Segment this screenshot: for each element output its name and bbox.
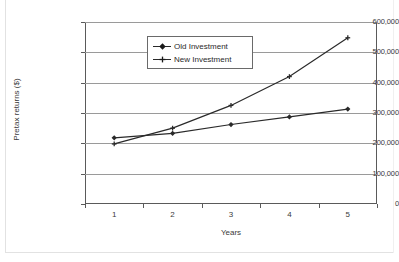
legend-label: Old Investment [172,42,228,51]
x-tick-mark [319,204,320,208]
x-tick-label: 1 [99,210,129,219]
y-tick-label: 100,000 [325,169,399,178]
x-tick-label: 5 [333,210,363,219]
x-tick-label: 2 [158,210,188,219]
x-tick-label: 3 [216,210,246,219]
x-tick-mark [260,204,261,208]
line-chart: 0100,000200,000300,000400,000500,000600,… [0,0,399,262]
x-tick-mark [85,204,86,208]
y-tick-mark [81,22,85,23]
legend-item-new-investment: New Investment [148,53,252,66]
y-tick-label: 400,000 [325,78,399,87]
y-tick-mark [81,143,85,144]
y-tick-mark [81,113,85,114]
x-tick-mark [202,204,203,208]
y-tick-label: 0 [325,199,399,208]
x-tick-label: 4 [274,210,304,219]
y-tick-label: 500,000 [325,47,399,56]
y-tick-mark [81,174,85,175]
y-tick-mark [81,83,85,84]
legend-item-old-investment: Old Investment [148,40,252,53]
y-tick-label: 600,000 [325,17,399,26]
y-tick-label: 200,000 [325,138,399,147]
x-tick-mark [377,204,378,208]
x-axis-title: Years [85,228,377,237]
cross-marker-icon [152,54,172,65]
legend-label: New Investment [172,55,231,64]
diamond-marker-icon [152,41,172,52]
y-tick-label: 300,000 [325,108,399,117]
x-tick-mark [143,204,144,208]
y-axis-title: Pretax returns ($) [12,50,21,170]
y-tick-mark [81,52,85,53]
chart-page: 0100,000200,000300,000400,000500,000600,… [0,0,399,262]
chart-legend: Old Investment New Investment [147,36,253,69]
